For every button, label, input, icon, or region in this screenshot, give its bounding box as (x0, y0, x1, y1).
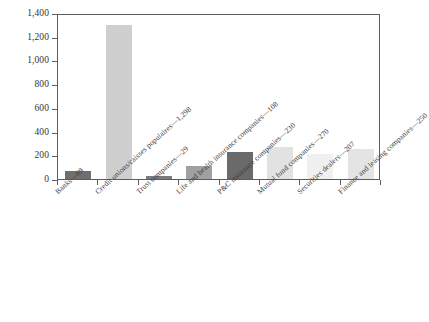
x-axis-tick-mark (138, 180, 139, 185)
y-axis-tick-mark (52, 109, 57, 110)
y-axis-tick-label: 0 (44, 175, 49, 185)
x-axis-tick-mark (299, 180, 300, 185)
y-axis-tick-mark (52, 156, 57, 157)
y-axis-tick-mark (52, 14, 57, 15)
y-axis-tick-label: 600 (34, 104, 49, 114)
y-axis-tick-mark (52, 61, 57, 62)
y-axis-tick-label: 200 (34, 152, 49, 162)
x-axis-tick-mark (57, 180, 58, 185)
y-axis-tick-label: 1,200 (27, 33, 49, 43)
x-axis-tick-mark (259, 180, 260, 185)
bar (106, 25, 132, 179)
y-axis-tick-mark (52, 85, 57, 86)
x-axis-tick-mark (380, 180, 381, 185)
x-axis-tick-mark (178, 180, 179, 185)
x-axis-tick-mark (340, 180, 341, 185)
y-axis-tick-labels: 02004006008001,0001,2001,400 (0, 0, 57, 200)
y-axis-tick-mark (52, 133, 57, 134)
y-axis-tick-label: 800 (34, 80, 49, 90)
y-axis-tick-label: 1,000 (27, 57, 49, 67)
x-axis-tick-mark (219, 180, 220, 185)
y-axis-tick-mark (52, 38, 57, 39)
x-axis-tick-mark (97, 180, 98, 185)
y-axis-tick-label: 400 (34, 128, 49, 138)
y-axis-tick-label: 1,400 (27, 9, 49, 19)
